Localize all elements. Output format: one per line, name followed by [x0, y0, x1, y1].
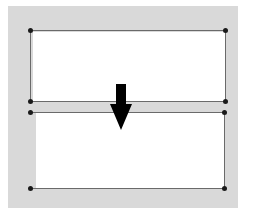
top-rectangle-right-edge — [225, 30, 226, 101]
arrow-down-icon — [110, 84, 132, 131]
bottom-rectangle-right-edge — [224, 112, 225, 188]
bottom-rectangle-bottom-edge — [30, 188, 224, 189]
bottom-rectangle-vertex-br[interactable] — [222, 186, 227, 191]
top-rectangle-left-edge — [30, 30, 31, 101]
bottom-rectangle-vertex-tr[interactable] — [222, 110, 227, 115]
diagram-canvas — [0, 0, 255, 221]
bottom-rectangle-vertex-tl[interactable] — [28, 110, 33, 115]
top-rectangle-vertex-bl[interactable] — [28, 99, 33, 104]
top-rectangle-vertex-tr[interactable] — [223, 28, 228, 33]
bottom-rectangle-vertex-bl[interactable] — [28, 186, 33, 191]
top-rectangle-vertex-br[interactable] — [223, 99, 228, 104]
top-rectangle-vertex-tl[interactable] — [28, 28, 33, 33]
top-rectangle-top-edge — [30, 30, 225, 31]
